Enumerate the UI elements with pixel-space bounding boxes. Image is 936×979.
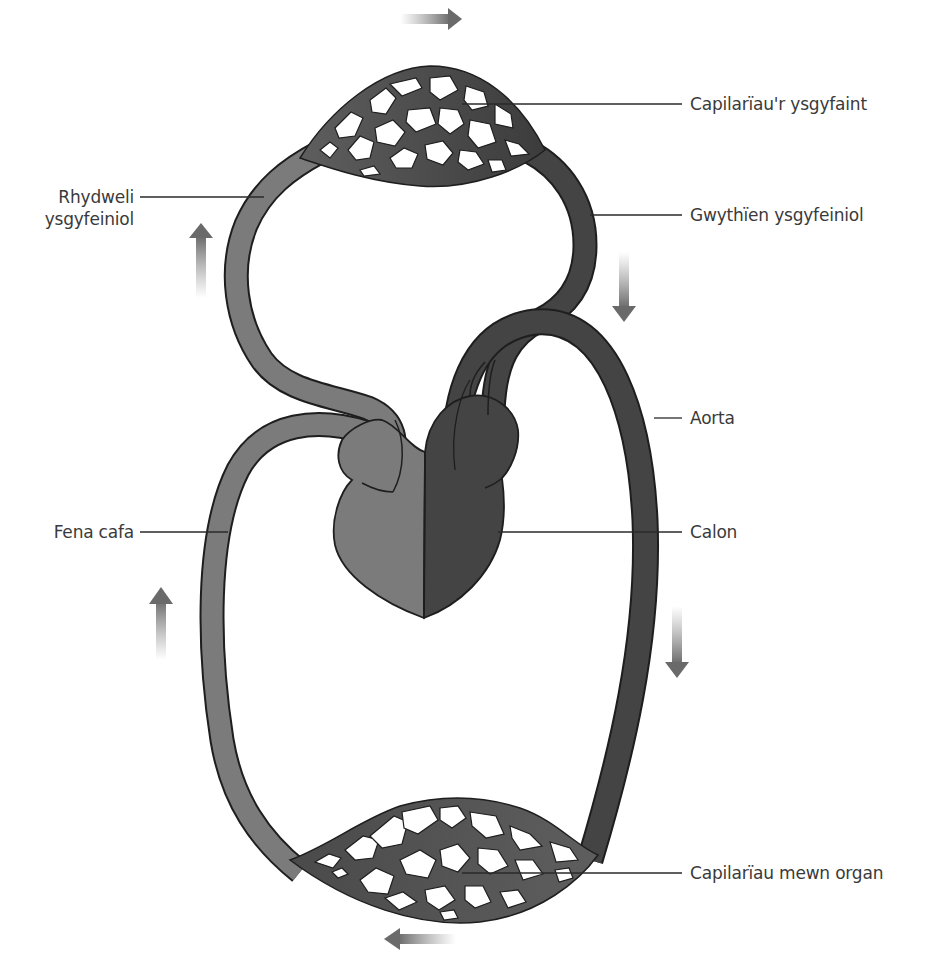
label-heart: Calon	[690, 521, 737, 543]
circulatory-diagram	[0, 0, 936, 979]
pulmonary-vein	[493, 152, 585, 412]
organ-capillary-bed	[290, 798, 598, 923]
flow-arrow-lower-left-up	[149, 587, 173, 660]
label-pulmonary-artery: Rhydweli ysgyfeiniol	[30, 186, 134, 230]
label-lung-capillaries: Capilarïau'r ysgyfaint	[690, 93, 867, 115]
flow-arrow-top-right	[400, 8, 462, 30]
flow-arrow-upper-right-down	[612, 252, 636, 322]
label-pulmonary-vein: Gwythïen ysgyfeiniol	[690, 204, 864, 226]
label-pulmonary-artery-line2: ysgyfeiniol	[30, 208, 134, 230]
vena-cava	[212, 425, 365, 872]
label-aorta: Aorta	[690, 407, 735, 429]
label-pulmonary-artery-line1: Rhydweli	[30, 186, 134, 208]
flow-arrow-lower-right-down	[665, 606, 689, 678]
flow-arrow-upper-left-up	[189, 223, 213, 298]
lung-capillary-bed	[300, 66, 545, 187]
flow-arrow-bottom-left	[384, 928, 456, 950]
label-organ-capillaries: Capilarïau mewn organ	[690, 862, 883, 884]
label-vena-cava: Fena cafa	[30, 521, 134, 543]
